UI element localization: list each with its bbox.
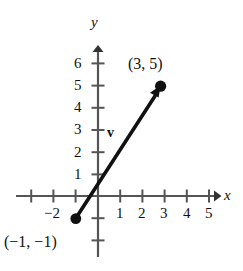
x-tick-label-1: 1 [116,206,124,221]
x-axis-arrowhead [214,191,222,202]
x-tick-label-neg2: −2 [44,206,60,221]
y-axis-label: y [91,15,98,30]
point-neg1-neg1-dot [70,213,81,224]
x-tick-label-5: 5 [205,206,213,221]
point-3-5-dot [155,81,166,92]
y-axis-arrowhead [93,45,104,52]
x-tick-label-4: 4 [183,206,191,221]
vector-label-v: v [107,126,114,140]
vector-plot-figure: y x 6 5 4 3 2 1 −2 1 2 3 4 5 (3, 5) (−1,… [0,0,243,271]
point-label-3-5: (3, 5) [128,56,163,72]
x-tick-label-3: 3 [160,206,168,221]
y-tick-label-2: 2 [74,145,82,160]
coordinate-plane-svg [0,0,243,271]
y-tick-label-3: 3 [74,122,82,137]
x-tick-label-2: 2 [138,206,146,221]
y-tick-label-5: 5 [74,78,82,93]
y-tick-label-4: 4 [74,100,82,115]
point-label-neg1-neg1: (−1, −1) [4,234,57,250]
y-tick-label-6: 6 [74,56,82,71]
y-tick-label-1: 1 [74,167,82,182]
x-axis-label: x [224,188,231,203]
